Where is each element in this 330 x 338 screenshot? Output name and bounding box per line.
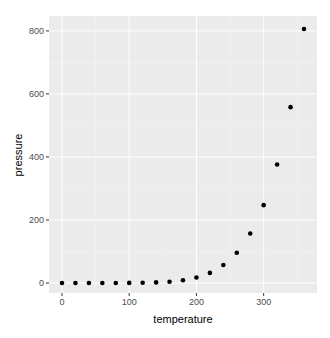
data-point: [208, 271, 213, 276]
x-tick-label: 0: [59, 297, 64, 307]
y-axis-title: pressure: [12, 134, 24, 177]
data-point: [87, 281, 92, 286]
y-tick-label: 800: [29, 26, 44, 36]
y-tick-label: 0: [39, 278, 44, 288]
data-point: [113, 281, 118, 286]
data-point: [288, 105, 293, 110]
x-tick-label: 200: [189, 297, 204, 307]
data-point: [154, 280, 159, 285]
data-point: [248, 231, 253, 236]
data-point: [181, 278, 186, 283]
data-point: [60, 281, 65, 286]
data-point: [194, 275, 199, 280]
y-tick-label: 200: [29, 215, 44, 225]
x-tick-label: 300: [256, 297, 271, 307]
data-point: [127, 281, 132, 286]
data-point: [73, 281, 78, 286]
data-point: [100, 281, 105, 286]
y-tick-label: 400: [29, 152, 44, 162]
x-axis-title: temperature: [153, 313, 212, 325]
x-axis: 0100200300: [59, 293, 271, 307]
data-point: [167, 279, 172, 284]
data-point: [275, 162, 280, 167]
scatter-plot: 0100200300 0200400600800 temperature pre…: [0, 0, 330, 338]
y-axis: 0200400600800: [29, 26, 49, 288]
x-tick-label: 100: [122, 297, 137, 307]
data-point: [234, 250, 239, 255]
data-point: [221, 263, 226, 268]
data-point: [261, 203, 266, 208]
data-point: [140, 280, 145, 285]
y-tick-label: 600: [29, 89, 44, 99]
data-point: [302, 27, 307, 32]
